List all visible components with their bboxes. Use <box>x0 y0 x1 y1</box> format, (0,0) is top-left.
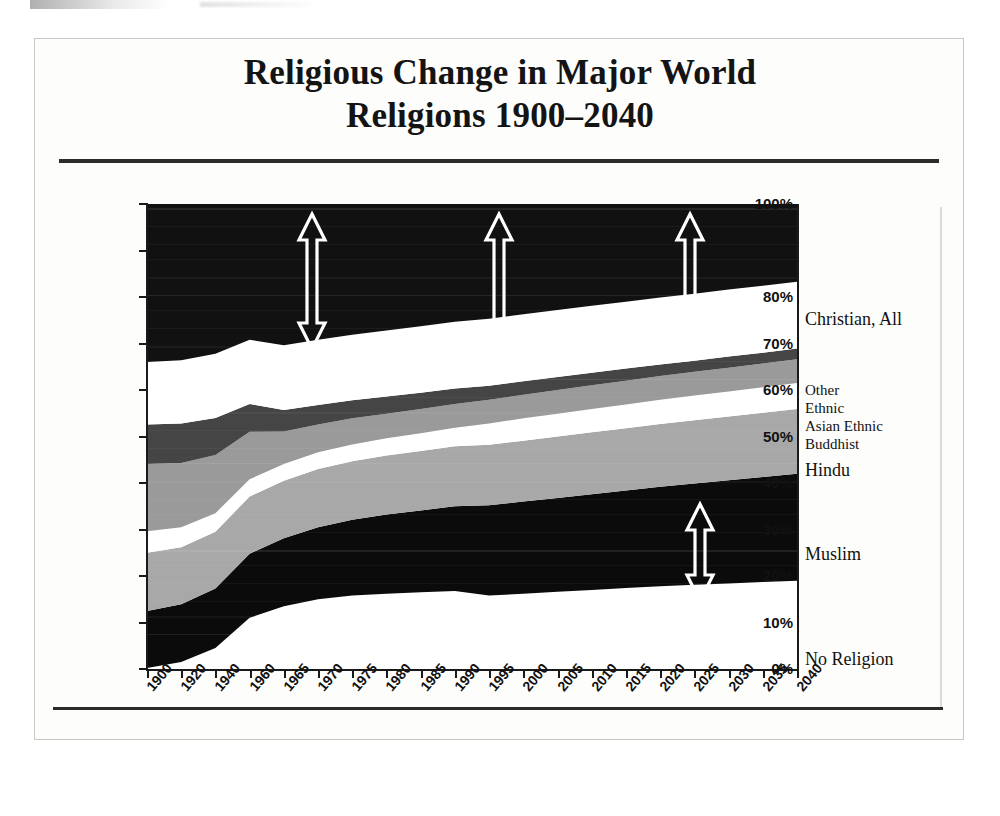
y-axis-tick-text: 30% <box>763 521 793 538</box>
scan-line-texture <box>147 361 797 362</box>
scan-line-texture <box>147 397 797 398</box>
figure-frame: Religious Change in Major World Religion… <box>34 38 964 740</box>
y-axis-tick-text: 80% <box>763 288 793 305</box>
legend-label-other: Other <box>805 382 839 399</box>
scan-line-texture <box>147 208 797 210</box>
bottom-divider-rule <box>53 707 943 710</box>
legend-label-hindu: Hindu <box>805 460 850 481</box>
y-axis-tick-text: 60% <box>763 381 793 398</box>
scan-line-texture <box>147 481 797 483</box>
scan-line-texture <box>147 295 797 296</box>
y-axis-tick-mark <box>139 296 148 298</box>
y-axis-tick-text: 100% <box>755 195 793 212</box>
y-axis-tick-mark <box>139 575 148 577</box>
y-axis-line <box>146 204 148 671</box>
scan-line-texture <box>147 226 797 227</box>
legend-label-christian-all: Christian, All <box>805 309 902 330</box>
scan-line-texture <box>147 310 797 311</box>
scan-line-texture <box>147 346 797 348</box>
scan-line-texture <box>147 499 797 500</box>
legend-label-ethnic: Ethnic <box>805 400 844 417</box>
legend-label-muslim: Muslim <box>805 544 861 565</box>
legend-label-no-religion: No Religion <box>805 649 894 670</box>
chart-title-line-1: Religious Change in Major World <box>35 51 965 94</box>
y-axis-tick-text: 70% <box>763 335 793 352</box>
scan-line-texture <box>147 448 797 449</box>
scan-line-texture <box>147 550 797 552</box>
scan-line-texture <box>147 634 797 635</box>
scan-artifact <box>30 0 170 9</box>
y-axis-tick-mark <box>139 343 148 345</box>
legend-label-buddhist: Buddhist <box>805 436 859 453</box>
legend: Christian, AllOtherEthnicAsian EthnicBud… <box>805 204 985 716</box>
scan-line-texture <box>147 616 797 618</box>
scan-line-texture <box>147 565 797 566</box>
y-axis-tick-text: 90% <box>763 242 793 259</box>
y-axis-tick-text: 40% <box>763 474 793 491</box>
plot-right-border <box>797 204 799 671</box>
stacked-area-svg <box>147 204 797 669</box>
scan-line-texture <box>147 244 797 245</box>
scan-line-texture <box>147 277 797 279</box>
legend-label-asian-ethnic: Asian Ethnic <box>805 418 883 435</box>
y-axis-tick-text: 10% <box>763 614 793 631</box>
scan-line-texture <box>147 379 797 380</box>
scan-line-texture <box>147 532 797 533</box>
scan-line-texture <box>147 412 797 414</box>
chart-title: Religious Change in Major World Religion… <box>35 51 965 137</box>
scan-artifact-secondary <box>200 2 320 7</box>
y-axis-tick-mark <box>139 389 148 391</box>
y-axis-tick-mark <box>139 529 148 531</box>
title-divider-rule <box>59 159 939 163</box>
scan-line-texture <box>147 259 797 260</box>
y-axis-tick-mark <box>139 203 148 205</box>
plot-wrapper: 100%90%80%70%60%50%40%30%20%10%0% 190019… <box>111 204 801 716</box>
y-axis-tick-text: 50% <box>763 428 793 445</box>
scan-line-texture <box>147 514 797 515</box>
stacked-area-plot <box>147 204 797 669</box>
scan-line-texture <box>147 463 797 464</box>
legend-divider <box>940 207 942 707</box>
scan-line-texture <box>147 583 797 584</box>
y-axis-tick-mark <box>139 250 148 252</box>
y-axis-tick-mark <box>139 622 148 624</box>
y-axis-tick-mark <box>139 436 148 438</box>
y-axis-tick-mark <box>139 482 148 484</box>
y-axis-tick-text: 20% <box>763 567 793 584</box>
scan-line-texture <box>147 430 797 431</box>
chart-title-line-2: Religions 1900–2040 <box>35 94 965 137</box>
